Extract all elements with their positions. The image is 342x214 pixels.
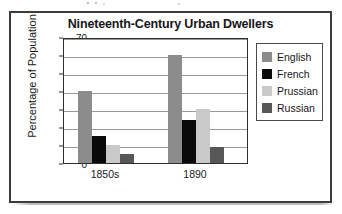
bar <box>196 109 210 163</box>
bar <box>182 120 196 163</box>
legend-item: French <box>262 65 318 82</box>
y-axis-title: Percentage of Population <box>26 11 38 141</box>
plot-area <box>63 38 248 164</box>
bar <box>92 136 106 163</box>
legend-swatch-icon <box>262 86 272 96</box>
legend-label: Russian <box>277 102 315 114</box>
legend-item: Prussian <box>262 82 318 99</box>
legend-label: Prussian <box>277 85 318 97</box>
legend-swatch-icon <box>262 52 272 62</box>
legend-label: French <box>277 68 310 80</box>
frame-shadow <box>11 203 334 205</box>
x-tick-label: 1850s <box>91 168 120 180</box>
bar <box>120 154 134 163</box>
chart-figure: Nineteenth-Century Urban Dwellers Percen… <box>9 11 332 203</box>
scan-noise <box>0 0 342 9</box>
legend-swatch-icon <box>262 103 272 113</box>
bar <box>106 145 120 163</box>
legend-item: English <box>262 48 318 65</box>
bar-group <box>168 39 224 163</box>
bar <box>168 55 182 163</box>
legend-swatch-icon <box>262 69 272 79</box>
x-tick-label: 1890 <box>183 168 206 180</box>
chart-legend: EnglishFrenchPrussianRussian <box>256 43 323 121</box>
bar <box>210 147 224 163</box>
legend-label: English <box>277 51 311 63</box>
bars-layer <box>64 39 247 163</box>
chart-title: Nineteenth-Century Urban Dwellers <box>11 17 330 31</box>
bar <box>78 91 92 163</box>
legend-item: Russian <box>262 99 318 116</box>
bar-group <box>78 39 134 163</box>
